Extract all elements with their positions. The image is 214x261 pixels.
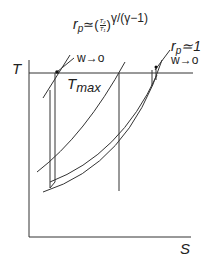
tmax-label: Tmax bbox=[67, 76, 101, 94]
pressure-ratio-max-label: rp≃(T₂T₁)γ/(γ−1) bbox=[73, 12, 148, 34]
approx-sign: ≃ bbox=[83, 17, 94, 32]
left-cycle-bottom-link bbox=[50, 182, 55, 188]
tmax-subscript: max bbox=[76, 80, 101, 95]
s-axis-label: S bbox=[180, 241, 190, 256]
t-axis-label: T bbox=[12, 61, 21, 76]
ratio-numerator: T₂ bbox=[100, 18, 106, 26]
work-zero-label-right: w→o bbox=[171, 54, 198, 66]
isobar-high-pressure bbox=[43, 55, 70, 98]
tmax-point-left bbox=[55, 70, 59, 74]
tmax-symbol: T bbox=[67, 75, 76, 92]
isobar-low-pressure-lower bbox=[43, 60, 162, 192]
tmax-point-right bbox=[155, 66, 158, 69]
ratio-denominator: T₁ bbox=[100, 26, 106, 33]
ratio-exponent: γ/(γ−1) bbox=[111, 11, 148, 25]
open-paren: ( bbox=[94, 17, 98, 32]
approx-one: ≃1 bbox=[181, 38, 201, 54]
leader-left bbox=[57, 58, 74, 72]
temperature-ratio: T₂T₁ bbox=[100, 18, 106, 32]
work-zero-label-left: w→o bbox=[77, 52, 104, 64]
